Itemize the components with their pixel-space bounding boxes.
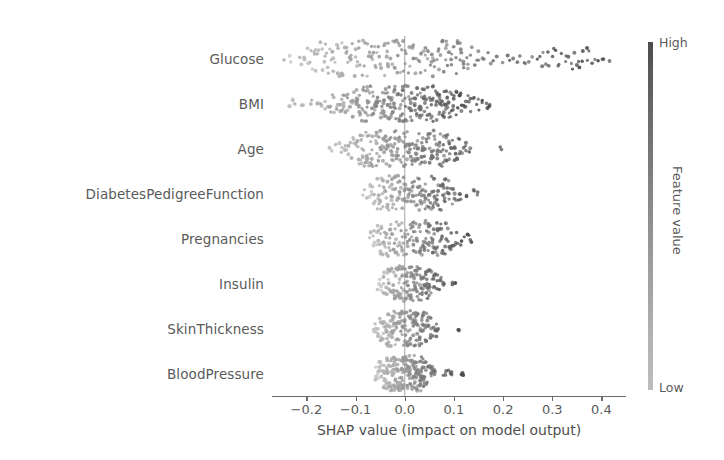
- beeswarm-scatter: [272, 36, 626, 396]
- beeswarm-point: [530, 55, 534, 59]
- beeswarm-point: [449, 247, 453, 251]
- beeswarm-point: [382, 332, 385, 335]
- beeswarm-point: [446, 96, 449, 99]
- beeswarm-point: [370, 148, 373, 151]
- beeswarm-point: [396, 147, 400, 151]
- beeswarm-point: [414, 152, 418, 156]
- beeswarm-point: [461, 372, 464, 375]
- beeswarm-point: [399, 292, 403, 296]
- beeswarm-point: [428, 161, 432, 165]
- beeswarm-point: [546, 50, 550, 54]
- beeswarm-point: [366, 75, 369, 78]
- beeswarm-point: [387, 208, 390, 211]
- beeswarm-point: [392, 90, 396, 94]
- beeswarm-point: [495, 55, 499, 59]
- beeswarm-point: [293, 102, 296, 105]
- beeswarm-point: [444, 46, 448, 50]
- beeswarm-point: [393, 383, 396, 386]
- x-axis-line: [272, 396, 626, 397]
- beeswarm-point: [371, 58, 375, 62]
- beeswarm-point: [322, 60, 326, 64]
- beeswarm-point: [432, 189, 436, 193]
- beeswarm-point: [288, 54, 292, 58]
- beeswarm-point: [446, 105, 450, 109]
- beeswarm-point: [404, 234, 407, 237]
- beeswarm-point: [465, 194, 468, 197]
- beeswarm-point: [355, 97, 359, 101]
- beeswarm-point: [392, 102, 396, 106]
- beeswarm-point: [406, 84, 410, 88]
- beeswarm-point: [524, 62, 527, 65]
- beeswarm-point: [360, 161, 364, 165]
- beeswarm-point: [344, 148, 348, 152]
- beeswarm-point: [409, 342, 413, 346]
- beeswarm-point: [421, 136, 425, 140]
- beeswarm-point: [392, 291, 395, 294]
- beeswarm-point: [340, 98, 344, 102]
- beeswarm-point: [390, 96, 394, 100]
- beeswarm-point: [453, 145, 457, 149]
- beeswarm-point: [506, 53, 510, 57]
- beeswarm-point: [414, 222, 418, 226]
- beeswarm-point: [433, 273, 436, 276]
- beeswarm-point: [356, 145, 359, 148]
- beeswarm-point: [435, 322, 438, 325]
- beeswarm-point: [406, 279, 409, 282]
- beeswarm-point: [444, 89, 448, 93]
- beeswarm-point: [385, 50, 389, 54]
- beeswarm-point: [420, 188, 424, 192]
- beeswarm-point: [477, 59, 480, 62]
- beeswarm-point: [418, 60, 421, 63]
- beeswarm-point: [449, 146, 452, 149]
- beeswarm-point: [403, 320, 406, 323]
- beeswarm-point: [379, 232, 382, 235]
- beeswarm-point: [426, 297, 429, 300]
- feature-label: BMI: [20, 97, 264, 111]
- beeswarm-point: [394, 129, 398, 133]
- beeswarm-point: [376, 207, 379, 210]
- beeswarm-point: [379, 375, 383, 379]
- beeswarm-point: [346, 96, 349, 99]
- beeswarm-point: [389, 198, 393, 202]
- beeswarm-point: [486, 51, 489, 54]
- beeswarm-point: [447, 369, 451, 373]
- beeswarm-point: [378, 184, 381, 187]
- beeswarm-point: [393, 241, 397, 245]
- beeswarm-point: [332, 111, 336, 115]
- beeswarm-row: [361, 174, 479, 212]
- x-axis: [272, 396, 626, 398]
- beeswarm-point: [547, 64, 551, 68]
- beeswarm-point: [399, 186, 403, 190]
- beeswarm-point: [379, 360, 383, 364]
- beeswarm-point: [434, 250, 438, 254]
- beeswarm-point: [404, 183, 408, 187]
- beeswarm-point: [593, 58, 596, 61]
- beeswarm-point: [391, 336, 394, 339]
- beeswarm-point: [462, 104, 465, 107]
- beeswarm-point: [427, 283, 431, 287]
- beeswarm-point: [395, 207, 398, 210]
- beeswarm-point: [408, 328, 412, 332]
- beeswarm-point: [382, 98, 386, 102]
- beeswarm-point: [371, 185, 375, 189]
- beeswarm-point: [372, 95, 375, 98]
- beeswarm-point: [436, 194, 439, 197]
- beeswarm-point: [321, 68, 325, 72]
- beeswarm-point: [455, 72, 458, 75]
- beeswarm-point: [395, 71, 399, 75]
- beeswarm-point: [445, 186, 449, 190]
- beeswarm-point: [423, 375, 427, 379]
- beeswarm-point: [468, 238, 472, 242]
- beeswarm-point: [377, 193, 381, 197]
- beeswarm-point: [400, 247, 404, 251]
- beeswarm-point: [541, 51, 544, 54]
- beeswarm-point: [425, 106, 428, 109]
- beeswarm-point: [424, 368, 428, 372]
- beeswarm-point: [413, 71, 417, 75]
- beeswarm-row: [372, 309, 461, 348]
- beeswarm-point: [473, 189, 476, 192]
- beeswarm-point: [404, 333, 408, 337]
- beeswarm-point: [386, 202, 390, 206]
- colorbar-title: Feature value: [670, 166, 684, 255]
- beeswarm-point: [402, 155, 405, 158]
